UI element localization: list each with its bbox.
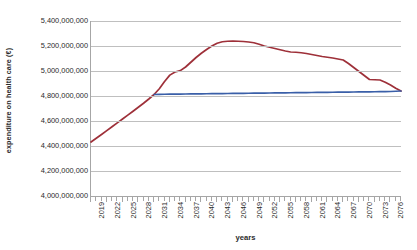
x-axis-tick-label: 2052	[270, 202, 279, 232]
y-axis-tick-label: 4,000,000,000	[20, 192, 88, 200]
x-axis-tick	[116, 197, 117, 201]
x-axis-tick	[95, 197, 96, 201]
chart-container: expenditure on health care (€) 5,400,000…	[0, 0, 417, 250]
gridline	[91, 171, 401, 172]
x-axis-tick	[274, 197, 275, 201]
x-axis-tick	[232, 197, 233, 202]
y-axis-tick-label: 5,400,000,000	[20, 17, 88, 25]
gridline	[91, 21, 401, 22]
x-axis-tick-label: 2061	[318, 202, 327, 232]
x-axis-tick	[363, 197, 364, 201]
x-axis-tick	[253, 197, 254, 201]
x-axis-tick-label: 2067	[349, 202, 358, 232]
x-axis-tick	[400, 197, 401, 201]
x-axis-tick-label: 2064	[333, 202, 342, 232]
x-axis-tick	[143, 197, 144, 201]
x-axis-tick	[384, 197, 385, 201]
x-axis-tick	[332, 197, 333, 201]
x-axis-tick-label: 2043	[223, 202, 232, 232]
x-axis-tick	[300, 197, 301, 201]
x-axis-tick-label: 2055	[286, 202, 295, 232]
x-axis-tick	[269, 197, 270, 201]
x-axis-tick	[153, 197, 154, 202]
x-axis-tick	[379, 197, 380, 201]
x-axis-tick-label: 2070	[365, 202, 374, 232]
x-axis-tick	[106, 197, 107, 202]
gridline	[91, 146, 401, 147]
x-axis-tick	[374, 197, 375, 202]
y-axis-tick-label: 4,600,000,000	[20, 117, 88, 125]
x-axis-tick-label: 2019	[97, 202, 106, 232]
x-axis-tick	[368, 197, 369, 201]
x-axis-tick	[169, 197, 170, 202]
x-axis-tick	[90, 197, 91, 202]
gridline	[91, 71, 401, 72]
gridline	[91, 121, 401, 122]
x-axis-tick-label: 2025	[129, 202, 138, 232]
x-axis-tick	[185, 197, 186, 202]
x-axis-tick	[195, 197, 196, 201]
x-axis-tick	[216, 197, 217, 202]
y-axis-title-label: expenditure on health care (€)	[5, 47, 14, 152]
x-axis-tick-label: 2073	[381, 202, 390, 232]
x-axis-tick	[258, 197, 259, 201]
y-axis-tick-label: 5,200,000,000	[20, 42, 88, 50]
x-axis-tick	[211, 197, 212, 201]
x-axis-tick	[305, 197, 306, 201]
x-axis-tick-label: 2022	[113, 202, 122, 232]
x-axis-tick-label: 2040	[207, 202, 216, 232]
x-axis-tick	[284, 197, 285, 201]
x-axis-tick	[337, 197, 338, 201]
gridline	[91, 46, 401, 47]
x-axis-tick	[347, 197, 348, 201]
x-axis-tick	[316, 197, 317, 201]
x-axis-tick	[132, 197, 133, 201]
y-axis-tick-label: 4,800,000,000	[20, 92, 88, 100]
x-axis-tick-label: 2046	[239, 202, 248, 232]
x-axis-tick-label: 2049	[255, 202, 264, 232]
y-axis-title: expenditure on health care (€)	[0, 0, 18, 200]
x-axis-tick	[206, 197, 207, 201]
gridline	[91, 96, 401, 97]
x-axis-tick	[227, 197, 228, 201]
x-axis-tick-labels: 2019202220252028203120342037204020432046…	[90, 203, 401, 233]
x-axis-tick	[358, 197, 359, 202]
x-axis-tick	[179, 197, 180, 201]
series-svg	[91, 21, 401, 196]
x-axis-tick-label: 2028	[144, 202, 153, 232]
x-axis-tick	[122, 197, 123, 202]
x-axis-tick	[164, 197, 165, 201]
x-axis-tick	[242, 197, 243, 201]
series-line-series_2	[154, 91, 401, 95]
x-axis-title: years	[90, 233, 401, 242]
x-axis-tick-label: 2076	[396, 202, 405, 232]
y-axis-tick-label: 5,000,000,000	[20, 67, 88, 75]
x-axis-tick-label: 2034	[176, 202, 185, 232]
x-axis-tick	[321, 197, 322, 201]
x-axis-tick	[353, 197, 354, 201]
x-axis-tick	[311, 197, 312, 202]
y-axis-tick-labels: 5,400,000,0005,200,000,0005,000,000,0004…	[18, 0, 88, 250]
x-axis-tick	[101, 197, 102, 201]
x-axis-tick-label: 2037	[192, 202, 201, 232]
x-axis-tick	[279, 197, 280, 202]
x-axis-tick-label: 2058	[302, 202, 311, 232]
x-axis-tick	[237, 197, 238, 201]
plot-area	[90, 21, 400, 196]
x-axis-tick	[290, 197, 291, 201]
x-axis-tick-label: 2031	[160, 202, 169, 232]
x-axis-tick	[148, 197, 149, 201]
x-axis-tick	[174, 197, 175, 201]
y-axis-tick-label: 4,200,000,000	[20, 167, 88, 175]
x-axis-tick	[248, 197, 249, 202]
x-axis-tick	[395, 197, 396, 201]
x-axis-tick	[111, 197, 112, 201]
y-axis-tick-label: 4,400,000,000	[20, 142, 88, 150]
x-axis-tick	[127, 197, 128, 201]
x-axis-tick	[190, 197, 191, 201]
x-axis-tick	[221, 197, 222, 201]
x-axis-tick	[295, 197, 296, 202]
x-axis-tick	[342, 197, 343, 202]
x-axis-tick	[158, 197, 159, 201]
